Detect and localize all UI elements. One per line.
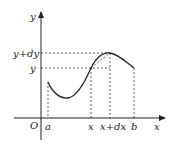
y-label: y: [29, 63, 36, 74]
a-label: a: [45, 121, 51, 132]
arc-length-diagram: y x O y+dy y a x x+dx b: [0, 0, 177, 146]
y-plus-dy-label: y+dy: [12, 48, 39, 59]
y-axis-label: y: [29, 11, 36, 22]
origin-label: O: [30, 120, 38, 131]
x-label: x: [88, 121, 94, 132]
x-plus-dx-label: x+dx: [100, 121, 126, 132]
dashed-guides: [41, 53, 134, 118]
function-curve: [48, 53, 134, 98]
x-axis-label: x: [154, 121, 160, 132]
b-label: b: [131, 121, 137, 132]
